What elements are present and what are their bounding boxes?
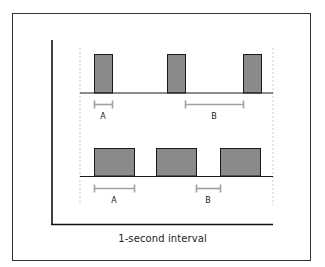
bottom-pulse-2 [157,149,197,177]
top-label-a: A [100,112,106,121]
bottom-bracket-a [95,185,135,193]
top-pulse-3 [244,55,262,94]
bottom-pulse-1 [95,149,135,177]
top-bracket-a [95,101,113,109]
x-axis-caption: 1-second interval [0,233,325,244]
top-bracket-b [186,101,244,109]
bottom-row: A B [80,149,273,206]
bottom-label-a: A [111,196,117,205]
bottom-bracket-b [197,185,221,193]
bottom-label-b: B [205,196,211,205]
pulse-width-diagram: A B A B [0,0,325,267]
top-pulse-1 [95,55,113,94]
top-row: A B [80,55,273,122]
top-pulse-2 [168,55,186,94]
top-label-b: B [211,112,217,121]
bottom-pulse-3 [221,149,261,177]
